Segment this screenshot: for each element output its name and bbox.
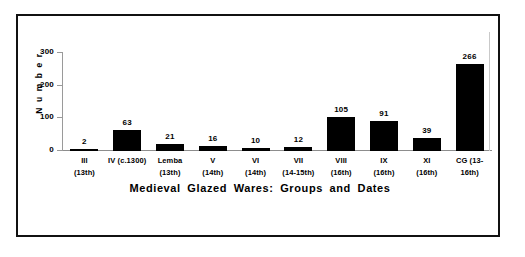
y-axis-tick-label: 200 (20, 80, 54, 89)
category-name: V (210, 156, 215, 165)
y-axis-tick-label: 300 (20, 47, 54, 56)
category-date: (13th) (58, 167, 110, 179)
bar[interactable] (370, 121, 398, 151)
bar-value-label: 39 (409, 126, 445, 135)
bar-group[interactable]: 63 (109, 36, 145, 151)
bar[interactable] (113, 130, 141, 151)
bar[interactable] (284, 147, 312, 151)
x-axis-category-label: CG (13-16th) (444, 155, 496, 178)
bar[interactable] (327, 117, 355, 151)
bar-group[interactable]: 21 (152, 36, 188, 151)
category-name: Lemba (158, 156, 183, 165)
bar-value-label: 91 (366, 109, 402, 118)
y-axis-tick-label: 0 (20, 145, 54, 154)
category-date: 16th) (444, 167, 496, 179)
bar-group[interactable]: 105 (323, 36, 359, 151)
bar[interactable] (413, 138, 441, 151)
bar-group[interactable]: 91 (366, 36, 402, 151)
plot-area: 263211610121059139266 (63, 36, 491, 151)
bar-group[interactable]: 10 (238, 36, 274, 151)
bar-group[interactable]: 16 (195, 36, 231, 151)
bar[interactable] (70, 149, 98, 151)
bar-value-label: 63 (109, 118, 145, 127)
bar-value-label: 266 (452, 52, 488, 61)
bar-chart: N u m b e r 0100200300 26321161012105913… (18, 16, 502, 239)
bar-group[interactable]: 12 (280, 36, 316, 151)
figure-frame: N u m b e r 0100200300 26321161012105913… (16, 14, 500, 237)
category-name: IV (c.1300) (108, 156, 146, 165)
bar-group[interactable]: 266 (452, 36, 488, 151)
category-name: VI (252, 156, 259, 165)
bar-value-label: 16 (195, 134, 231, 143)
bar[interactable] (156, 144, 184, 151)
category-name: VII (294, 156, 303, 165)
bar-value-label: 2 (66, 137, 102, 146)
bar[interactable] (456, 64, 484, 151)
category-name: IX (380, 156, 387, 165)
bar-group[interactable]: 39 (409, 36, 445, 151)
bar-value-label: 21 (152, 132, 188, 141)
y-axis-tick-label: 100 (20, 112, 54, 121)
category-name: VIII (335, 156, 347, 165)
bar-group[interactable]: 2 (66, 36, 102, 151)
category-name: XI (423, 156, 430, 165)
chart-title: Medieval Glazed Wares: Groups and Dates (18, 182, 502, 194)
category-name: III (81, 156, 88, 165)
bar-value-label: 10 (238, 136, 274, 145)
bar-value-label: 12 (280, 135, 316, 144)
bar[interactable] (199, 146, 227, 151)
category-name: CG (13- (456, 156, 483, 165)
bar-value-label: 105 (323, 105, 359, 114)
bar[interactable] (242, 148, 270, 151)
